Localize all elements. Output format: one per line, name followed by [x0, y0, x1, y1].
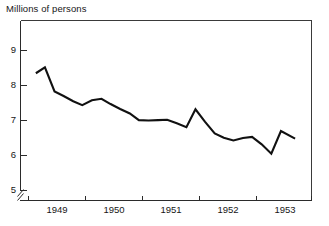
chart-plot-area: [0, 0, 329, 226]
chart-container: Millions of persons 9 8 7 6 5 1949 1950 …: [0, 0, 329, 226]
x-axis-label-1953: 1953: [265, 205, 305, 215]
x-axis-line: [21, 200, 312, 201]
x-axis-label-1950: 1950: [94, 205, 134, 215]
x-axis-label-1949: 1949: [37, 205, 77, 215]
y-axis-label-9: 9: [4, 45, 16, 55]
y-axis-label-7: 7: [4, 115, 16, 125]
axis-break-mark: [18, 190, 24, 201]
y-axis-label-6: 6: [4, 150, 16, 160]
x-axis-label-1951: 1951: [151, 205, 191, 215]
y-axis-label-8: 8: [4, 80, 16, 90]
x-axis-label-1952: 1952: [208, 205, 248, 215]
y-axis-label-5: 5: [4, 185, 16, 195]
data-series-line: [36, 67, 295, 153]
